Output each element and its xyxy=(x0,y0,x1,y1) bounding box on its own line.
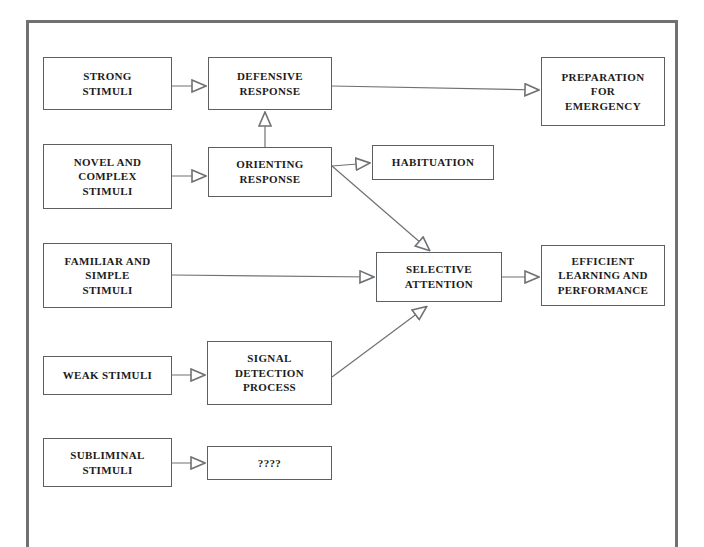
node-label: ORIENTING RESPONSE xyxy=(232,157,307,186)
edge-signal-to-selective xyxy=(332,307,426,377)
node-label: HABITUATION xyxy=(388,155,479,170)
node-label: PREPARATION FOR EMERGENCY xyxy=(558,70,649,114)
node-novel-and-complex-stimuli[interactable]: NOVEL AND COMPLEX STIMULI xyxy=(43,144,172,209)
node-unknown-outcome[interactable]: ???? xyxy=(207,446,332,480)
node-label: EFFICIENT LEARNING AND PERFORMANCE xyxy=(554,254,653,298)
page-frame-top-rule xyxy=(26,20,678,23)
node-habituation[interactable]: HABITUATION xyxy=(372,145,494,180)
node-label: NOVEL AND COMPLEX STIMULI xyxy=(70,155,146,199)
node-preparation-for-emergency[interactable]: PREPARATION FOR EMERGENCY xyxy=(541,57,665,126)
node-label: DEFENSIVE RESPONSE xyxy=(233,69,307,98)
node-efficient-learning-and-performance[interactable]: EFFICIENT LEARNING AND PERFORMANCE xyxy=(541,245,665,306)
node-strong-stimuli[interactable]: STRONG STIMULI xyxy=(43,57,172,110)
node-weak-stimuli[interactable]: WEAK STIMULI xyxy=(43,356,172,395)
node-subliminal-stimuli[interactable]: SUBLIMINAL STIMULI xyxy=(43,438,172,487)
edge-familiar-to-selective xyxy=(172,275,374,277)
node-label: ???? xyxy=(254,456,285,471)
node-label: STRONG STIMULI xyxy=(78,69,136,98)
diagram-page: STRONG STIMULI DEFENSIVE RESPONSE PREPAR… xyxy=(0,0,704,547)
node-selective-attention[interactable]: SELECTIVE ATTENTION xyxy=(376,252,502,302)
edge-defensive-to-preparation xyxy=(332,86,539,90)
node-signal-detection-process[interactable]: SIGNAL DETECTION PROCESS xyxy=(207,341,332,405)
node-defensive-response[interactable]: DEFENSIVE RESPONSE xyxy=(208,57,332,110)
node-familiar-and-simple-stimuli[interactable]: FAMILIAR AND SIMPLE STIMULI xyxy=(43,243,172,308)
node-label: SELECTIVE ATTENTION xyxy=(401,262,477,291)
node-label: SUBLIMINAL STIMULI xyxy=(66,448,148,477)
page-frame-right-rule xyxy=(675,20,678,547)
page-frame-left-rule xyxy=(26,20,29,547)
node-label: FAMILIAR AND SIMPLE STIMULI xyxy=(60,254,154,298)
node-orienting-response[interactable]: ORIENTING RESPONSE xyxy=(208,147,332,197)
node-label: WEAK STIMULI xyxy=(59,368,156,383)
edge-orienting-to-habituation xyxy=(332,163,370,166)
node-label: SIGNAL DETECTION PROCESS xyxy=(231,351,308,395)
